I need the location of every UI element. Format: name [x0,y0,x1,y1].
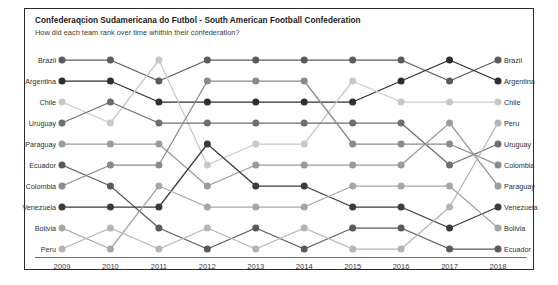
data-point[interactable] [349,99,356,106]
data-point[interactable] [301,225,308,232]
data-point[interactable] [301,141,308,148]
data-point[interactable] [398,120,405,127]
data-point[interactable] [446,246,453,253]
data-point[interactable] [155,225,162,232]
data-point[interactable] [107,120,114,127]
data-point[interactable] [495,120,502,127]
data-point[interactable] [204,99,211,106]
data-point[interactable] [252,57,259,64]
data-point[interactable] [204,162,211,169]
data-point[interactable] [155,162,162,169]
data-point[interactable] [155,204,162,211]
data-point[interactable] [495,57,502,64]
data-point[interactable] [252,141,259,148]
data-point[interactable] [349,183,356,190]
data-point[interactable] [107,183,114,190]
data-point[interactable] [204,120,211,127]
data-point[interactable] [252,120,259,127]
data-point[interactable] [349,78,356,85]
data-point[interactable] [349,204,356,211]
data-point[interactable] [446,78,453,85]
data-point[interactable] [107,204,114,211]
data-point[interactable] [495,204,502,211]
data-point[interactable] [495,246,502,253]
data-point[interactable] [107,141,114,148]
data-point[interactable] [398,246,405,253]
data-point[interactable] [59,204,66,211]
data-point[interactable] [204,246,211,253]
data-point[interactable] [155,246,162,253]
data-point[interactable] [252,246,259,253]
data-point[interactable] [59,141,66,148]
data-point[interactable] [349,162,356,169]
data-point[interactable] [398,183,405,190]
data-point[interactable] [155,183,162,190]
data-point[interactable] [446,162,453,169]
data-point[interactable] [301,162,308,169]
data-point[interactable] [155,141,162,148]
data-point[interactable] [155,57,162,64]
data-point[interactable] [495,183,502,190]
data-point[interactable] [107,57,114,64]
data-point[interactable] [204,204,211,211]
data-point[interactable] [495,141,502,148]
data-point[interactable] [107,78,114,85]
data-point[interactable] [204,141,211,148]
data-point[interactable] [59,246,66,253]
data-point[interactable] [446,141,453,148]
data-point[interactable] [107,99,114,106]
data-point[interactable] [155,120,162,127]
data-point[interactable] [398,99,405,106]
data-point[interactable] [398,204,405,211]
data-point[interactable] [301,204,308,211]
data-point[interactable] [252,225,259,232]
data-point[interactable] [446,120,453,127]
data-point[interactable] [349,141,356,148]
data-point[interactable] [301,246,308,253]
data-point[interactable] [252,99,259,106]
data-point[interactable] [301,78,308,85]
data-point[interactable] [446,57,453,64]
data-point[interactable] [107,246,114,253]
data-point[interactable] [495,99,502,106]
data-point[interactable] [204,225,211,232]
data-point[interactable] [301,120,308,127]
data-point[interactable] [107,225,114,232]
data-point[interactable] [446,204,453,211]
data-point[interactable] [59,99,66,106]
data-point[interactable] [349,120,356,127]
data-point[interactable] [59,162,66,169]
data-point[interactable] [301,57,308,64]
data-point[interactable] [495,225,502,232]
data-point[interactable] [398,78,405,85]
data-point[interactable] [59,225,66,232]
data-point[interactable] [398,225,405,232]
data-point[interactable] [59,57,66,64]
data-point[interactable] [349,246,356,253]
data-point[interactable] [252,204,259,211]
data-point[interactable] [155,78,162,85]
data-point[interactable] [252,162,259,169]
data-point[interactable] [204,57,211,64]
data-point[interactable] [349,57,356,64]
data-point[interactable] [301,183,308,190]
data-point[interactable] [398,57,405,64]
data-point[interactable] [252,183,259,190]
data-point[interactable] [59,78,66,85]
data-point[interactable] [107,162,114,169]
data-point[interactable] [446,99,453,106]
data-point[interactable] [398,141,405,148]
data-point[interactable] [495,162,502,169]
data-point[interactable] [204,78,211,85]
data-point[interactable] [349,225,356,232]
data-point[interactable] [59,183,66,190]
data-point[interactable] [301,99,308,106]
data-point[interactable] [155,99,162,106]
data-point[interactable] [398,162,405,169]
data-point[interactable] [204,183,211,190]
data-point[interactable] [495,78,502,85]
data-point[interactable] [446,183,453,190]
data-point[interactable] [252,78,259,85]
data-point[interactable] [59,120,66,127]
data-point[interactable] [446,225,453,232]
